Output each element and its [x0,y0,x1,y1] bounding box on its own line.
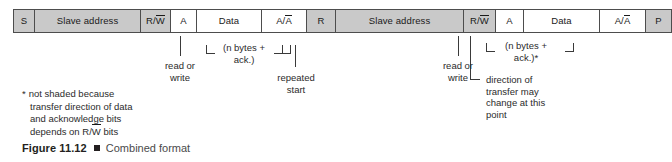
frame-cell-data-2: Data [524,10,600,32]
frame-cell-ack-nack-1: A/A [262,10,307,32]
frame-cell-read-write-1: R/W [141,10,171,32]
frame-cell-start: S [14,10,35,32]
annotation-direction-change: direction of transfer may change at this… [486,74,606,120]
footnote-block: *not shaded because transfer direction o… [22,88,132,138]
footnote-line-2: and acknowledge bits [22,113,132,126]
bracket-right-n-bytes-2 [565,43,574,52]
frame-cell-read-write-2: R/W [464,10,496,32]
frame-cell-ack-1: A [171,10,197,32]
annotation-repeated-start: repeated start [266,72,326,95]
figure-caption: Figure 11.12Combined format [22,142,190,155]
footnote-line-3: depends on R/W bits [22,126,132,139]
square-bullet-icon [94,145,100,151]
figure-number: Figure 11.12 [22,142,87,154]
frame-cell-slave-address-2: Slave address [336,10,464,32]
frame-cell-ack-2: A [496,10,524,32]
annotation-n-bytes-ack-2: (n bytes + ack.)* [494,40,558,63]
frame-cell-stop: P [646,10,671,32]
overline-w-2: W [480,16,489,26]
overline-w-1: W [156,16,165,26]
leader-line-read-write-1 [180,36,181,56]
overline-a-2: A [624,16,630,26]
leader-line-repeated-start [295,45,296,67]
frame-cell-ack-nack-2: A/A [600,10,646,32]
bracket-repeated-start-elbow [281,45,291,54]
footnote-star: * [22,88,26,99]
frame-cell-repeated-start: R [307,10,336,32]
annotation-n-bytes-ack-1: (n bytes + ack.) [213,42,275,65]
annotation-read-or-write-1: read or write [148,60,212,83]
figure-title: Combined format [106,142,190,154]
leader-line-read-write-2 [458,36,459,56]
annotation-read-or-write-2: read or write [426,60,490,83]
frame-cell-slave-address-1: Slave address [35,10,141,32]
overline-a-1: A [285,16,291,26]
footnote-line-1: transfer direction of data [22,101,132,114]
footnote-line-0: *not shaded because [22,88,132,101]
frame-cell-data-1: Data [197,10,262,32]
overline-w-footnote: W [92,126,101,139]
i2c-frame-strip: S Slave address R/W A Data A/A R Slave a… [13,9,672,33]
